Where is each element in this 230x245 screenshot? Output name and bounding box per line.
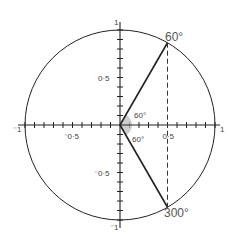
x-axis-label: 0·5 bbox=[163, 132, 175, 141]
y-axis-label: ⁻0·5 bbox=[94, 169, 110, 178]
y-axis-label: 0·5 bbox=[98, 74, 110, 83]
x-axis-label: ⁻1 bbox=[13, 125, 22, 134]
y-axis-label: 1 bbox=[114, 18, 119, 27]
x-axis-label: 1 bbox=[220, 125, 225, 134]
point-label-300: 300° bbox=[164, 206, 189, 220]
point-label-60: 60° bbox=[165, 30, 183, 44]
unit-circle-diagram: ⁻1⁻0·50·51 10·5⁻0·5⁻1 60° 300° 60° 60° bbox=[0, 0, 230, 245]
angle-label-upper: 60° bbox=[134, 111, 146, 120]
angle-label-lower: 60° bbox=[132, 135, 144, 144]
y-axis-label: ⁻1 bbox=[110, 223, 119, 232]
diagram-svg: ⁻1⁻0·50·51 10·5⁻0·5⁻1 60° 300° 60° 60° bbox=[0, 0, 230, 245]
x-axis-labels: ⁻1⁻0·50·51 bbox=[13, 125, 225, 141]
x-axis-label: ⁻0·5 bbox=[64, 132, 80, 141]
